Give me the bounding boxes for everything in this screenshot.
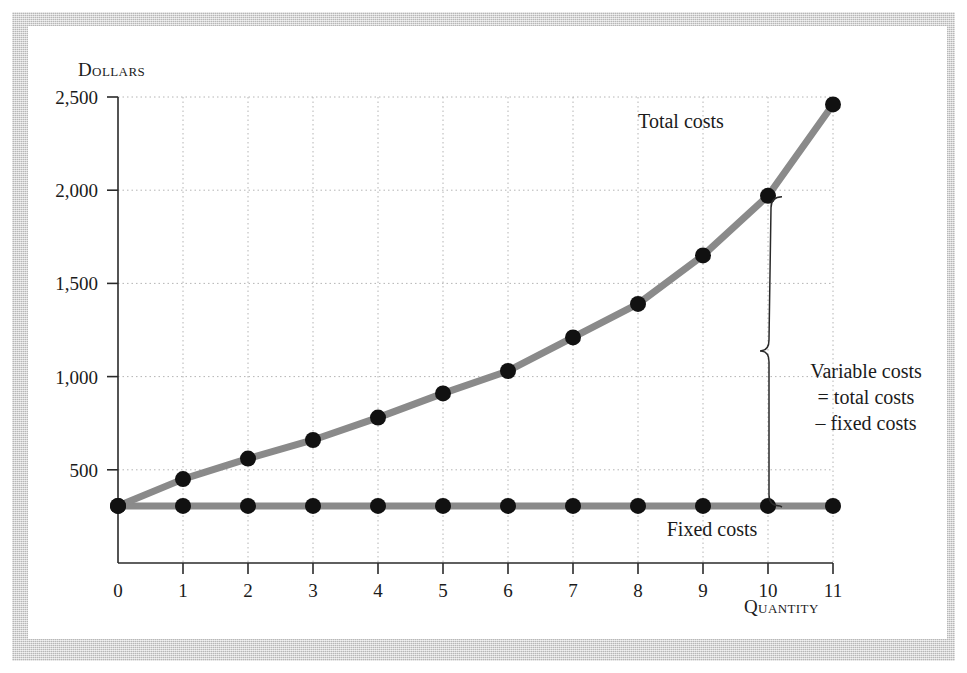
data-point: [500, 363, 516, 379]
tick-label-x: 9: [698, 580, 708, 601]
horizontal-gridlines: [118, 97, 833, 470]
variable-costs-line-1: Variable costs: [810, 360, 922, 382]
data-point: [175, 471, 191, 487]
variable-costs-line-2: = total costs: [818, 386, 915, 408]
data-point: [240, 498, 256, 514]
y-axis-ticks: [107, 97, 118, 470]
vertical-gridlines: [183, 97, 833, 563]
data-point: [305, 498, 321, 514]
tick-label-y: 2,000: [55, 180, 98, 201]
cost-curves-chart: 5001,0001,5002,0002,500 01234567891011 D…: [0, 0, 967, 673]
y-axis-tick-labels: 5001,0001,5002,0002,500: [55, 87, 98, 481]
tick-label-x: 3: [308, 580, 318, 601]
data-point: [825, 498, 841, 514]
tick-label-x: 11: [824, 580, 842, 601]
tick-label-x: 6: [503, 580, 513, 601]
variable-costs-line-3: – fixed costs: [814, 412, 916, 434]
tick-label-x: 2: [243, 580, 253, 601]
chart-stage: 5001,0001,5002,0002,500 01234567891011 D…: [0, 0, 967, 673]
tick-label-y: 1,500: [55, 273, 98, 294]
data-point: [760, 188, 776, 204]
data-point: [695, 247, 711, 263]
data-point: [565, 329, 581, 345]
data-point: [760, 498, 776, 514]
data-point: [175, 498, 191, 514]
x-axis-ticks: [183, 563, 833, 574]
tick-label-x: 0: [113, 580, 123, 601]
data-point: [435, 385, 451, 401]
data-point: [825, 96, 841, 112]
tick-label-x: 8: [633, 580, 643, 601]
x-axis-tick-labels: 01234567891011: [113, 580, 842, 601]
data-point: [435, 498, 451, 514]
total-costs-label: Total costs: [638, 110, 724, 132]
data-point: [370, 410, 386, 426]
data-point: [240, 451, 256, 467]
tick-label-x: 7: [568, 580, 578, 601]
data-point: [630, 498, 646, 514]
data-point: [305, 432, 321, 448]
y-axis-title: Dollars: [78, 59, 145, 80]
variable-costs-brace: [760, 197, 782, 507]
tick-label-x: 5: [438, 580, 448, 601]
tick-label-x: 1: [178, 580, 188, 601]
fixed-costs-label: Fixed costs: [667, 518, 758, 540]
data-point: [110, 498, 126, 514]
data-point: [370, 498, 386, 514]
data-point: [565, 498, 581, 514]
x-axis-title: Quantity: [744, 596, 819, 617]
data-point: [630, 296, 646, 312]
chart-page: 5001,0001,5002,0002,500 01234567891011 D…: [0, 0, 967, 673]
total-costs-markers: [110, 96, 841, 514]
data-point: [500, 498, 516, 514]
tick-label-y: 1,000: [55, 367, 98, 388]
tick-label-y: 500: [70, 460, 99, 481]
data-point: [695, 498, 711, 514]
total-costs-line: [118, 104, 833, 506]
tick-label-y: 2,500: [55, 87, 98, 108]
tick-label-x: 4: [373, 580, 383, 601]
